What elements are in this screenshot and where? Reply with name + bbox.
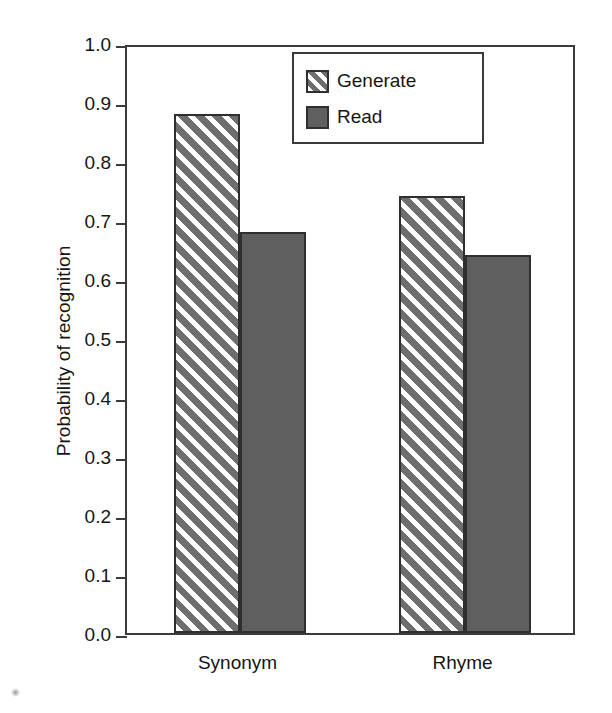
- y-axis-tick-mark: [116, 164, 127, 166]
- bar-rhyme-read: [465, 255, 531, 633]
- scan-artifact: [11, 688, 20, 697]
- y-axis-tick-label: 0.1: [85, 565, 111, 587]
- y-axis-tick-label: 0.0: [85, 624, 111, 646]
- bar-chart-figure: Probability of recognition 1.00.90.80.70…: [0, 0, 612, 713]
- y-axis-tick-label: 0.5: [85, 329, 111, 351]
- y-axis-tick-mark: [116, 636, 127, 638]
- legend-entry-read: Read: [306, 99, 482, 135]
- y-axis-tick-label: 0.4: [85, 388, 111, 410]
- legend-label-read: Read: [337, 106, 382, 128]
- y-axis-tick-mark: [116, 46, 127, 48]
- y-axis-tick-mark: [116, 105, 127, 107]
- y-axis-tick-mark: [116, 282, 127, 284]
- legend-swatch-read-icon: [306, 106, 329, 129]
- y-axis-tick-label: 1.0: [85, 34, 111, 56]
- y-axis-tick-label: 0.6: [85, 270, 111, 292]
- bar-rhyme-generate: [399, 196, 465, 633]
- bar-synonym-generate: [174, 114, 240, 633]
- y-axis-tick-label: 0.2: [85, 506, 111, 528]
- legend: Generate Read: [292, 52, 484, 144]
- y-axis-tick-mark: [116, 341, 127, 343]
- y-axis-tick-mark: [116, 518, 127, 520]
- y-axis-tick-mark: [116, 400, 127, 402]
- bar-synonym-read: [240, 232, 306, 633]
- legend-swatch-generate-icon: [306, 70, 329, 93]
- legend-entry-generate: Generate: [306, 63, 482, 99]
- y-axis-tick-label: 0.7: [85, 211, 111, 233]
- y-axis-tick-label: 0.8: [85, 152, 111, 174]
- y-axis-tick-mark: [116, 459, 127, 461]
- x-axis-category-label: Synonym: [125, 652, 350, 674]
- legend-label-generate: Generate: [337, 70, 416, 92]
- y-axis-tick-label: 0.3: [85, 447, 111, 469]
- y-axis-title: Probability of recognition: [53, 141, 75, 561]
- x-axis-category-label: Rhyme: [350, 652, 575, 674]
- y-axis-tick-mark: [116, 223, 127, 225]
- y-axis-tick-mark: [116, 577, 127, 579]
- y-axis-tick-label: 0.9: [85, 93, 111, 115]
